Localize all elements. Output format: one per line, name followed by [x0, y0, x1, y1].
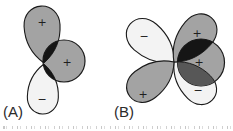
- phase-sign-a-top: +: [37, 16, 46, 29]
- phase-sign-b-circle: +: [194, 56, 203, 69]
- phase-sign-b-top-left: −: [139, 30, 148, 43]
- phase-sign-a-circle: +: [62, 56, 71, 69]
- phase-sign-b-bottom-right: −: [193, 84, 202, 97]
- diagram-a: + + − (A): [3, 5, 85, 120]
- diagram-b: − + + − + (B): [114, 7, 225, 120]
- phase-sign-b-bottom-left: +: [138, 88, 147, 101]
- phase-sign-b-top-right: +: [192, 27, 201, 40]
- panel-label-b: (B): [114, 103, 134, 120]
- orbital-diagram-canvas: + + − (A) − + + −: [0, 0, 233, 131]
- phase-sign-a-bottom: −: [37, 93, 46, 106]
- panel-label-a: (A): [3, 103, 23, 120]
- orbital-overlap-figure: + + − (A) − + + −: [0, 0, 233, 131]
- cropped-caption-fragment: [3, 126, 231, 129]
